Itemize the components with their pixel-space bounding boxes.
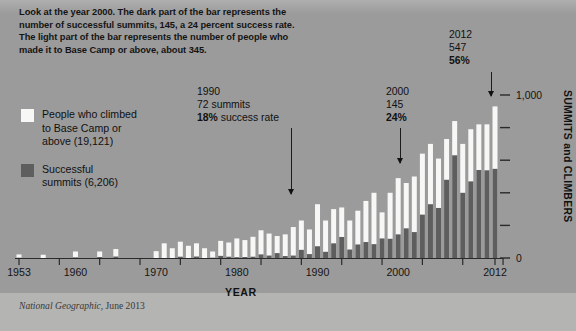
- bar-summits-2004: [428, 204, 433, 258]
- bar-climbers-2009: [468, 129, 473, 258]
- annotation-2012: 2012 547 56%: [449, 28, 472, 68]
- bar-climbers-2003: [420, 154, 425, 258]
- bar-summits-1953: [17, 258, 22, 259]
- bar-climbers-2012: [493, 106, 498, 258]
- bar-climbers-1995: [355, 211, 360, 258]
- y-axis-title: SUMMITS and CLIMBERS: [562, 90, 573, 222]
- legend-summits-line-1: Successful: [42, 163, 118, 177]
- caption-text: Look at the year 2000. The dark part of …: [19, 6, 319, 56]
- annotation-1990-rate: 18% success rate: [197, 111, 279, 124]
- bar-summits-1991: [323, 252, 328, 258]
- annotation-1990-year: 1990: [197, 85, 279, 98]
- bar-climbers-2006: [444, 139, 449, 258]
- bar-climbers-1990: [315, 204, 320, 258]
- x-axis-label-1953: 1953: [7, 266, 31, 278]
- y-axis-label-1000: 1,000: [516, 90, 542, 101]
- annotation-2012-rate-pct: 56%: [449, 55, 470, 66]
- annotation-2012-year: 2012: [449, 28, 472, 41]
- caption-line-3: The light part of the bar represents the…: [19, 31, 319, 44]
- bar-summits-1977: [210, 258, 215, 259]
- legend-swatch-dark-icon: [21, 164, 34, 177]
- bar-summits-1978: [218, 256, 223, 258]
- bar-summits-1992: [331, 243, 336, 258]
- bar-climbers-1992: [331, 209, 336, 258]
- bar-climbers-1987: [291, 227, 296, 258]
- infographic-root: Look at the year 2000. The dark part of …: [0, 0, 576, 331]
- bar-summits-1987: [291, 256, 296, 258]
- legend-item-climbers: People who climbed to Base Camp or above…: [21, 108, 137, 149]
- legend-label-climbers: People who climbed to Base Camp or above…: [42, 108, 137, 149]
- bar-climbers-1989: [307, 229, 312, 258]
- bar-climbers-1977: [210, 251, 215, 258]
- bar-summits-1963: [97, 257, 102, 258]
- bar-summits-2001: [404, 228, 409, 258]
- bar-summits-1985: [275, 253, 280, 258]
- x-axis-label-1980: 1980: [225, 266, 249, 278]
- bar-climbers-1978: [218, 241, 223, 258]
- bar-climbers-1982: [250, 237, 255, 258]
- bar-summits-1993: [339, 237, 344, 258]
- bar-summits-1995: [355, 244, 360, 258]
- bar-summits-1980: [234, 257, 239, 258]
- caption-line-1: Look at the year 2000. The dark part of …: [19, 6, 319, 19]
- bar-summits-1996: [363, 242, 368, 258]
- x-axis-title: YEAR: [225, 286, 257, 298]
- bar-climbers-1979: [226, 243, 231, 258]
- bar-summits-1981: [242, 257, 247, 258]
- bar-climbers-1975: [194, 243, 199, 258]
- bar-summits-1984: [267, 256, 272, 258]
- legend-swatch-light-icon: [21, 109, 34, 122]
- bar-summits-1994: [347, 250, 352, 258]
- leader-arrow-2000-icon: [397, 158, 403, 164]
- caption-line-4: made it to Base Camp or above, about 345…: [19, 44, 319, 57]
- legend-climbers-line-2: to Base Camp or: [42, 122, 137, 136]
- bar-summits-2003: [420, 215, 425, 258]
- bar-climbers-1972: [170, 248, 175, 258]
- bar-climbers-1986: [283, 234, 288, 258]
- bar-summits-2010: [476, 170, 481, 258]
- footer-band: [0, 293, 576, 331]
- leader-arrow-1990-icon: [288, 189, 294, 195]
- source-publication: National Geographic: [19, 300, 101, 311]
- bar-summits-1997: [371, 244, 376, 258]
- bar-summits-1983: [259, 254, 264, 258]
- bar-summits-2002: [412, 232, 417, 258]
- bar-climbers-2011: [484, 124, 489, 258]
- bar-climbers-1994: [347, 221, 352, 258]
- annotation-1990: 1990 72 summits 18% success rate: [197, 85, 279, 125]
- annotation-1990-value: 72 summits: [197, 98, 279, 111]
- y-axis-label-0: 0: [516, 253, 522, 264]
- bar-summits-1986: [283, 256, 288, 258]
- annotation-2000: 2000 145 24%: [386, 85, 409, 125]
- bar-climbers-1996: [363, 201, 368, 258]
- bar-climbers-1970: [154, 251, 159, 258]
- bar-summits-1999: [388, 239, 393, 258]
- x-axis-label-1990: 1990: [306, 266, 330, 278]
- bar-summits-1973: [178, 257, 183, 258]
- bar-summits-2006: [444, 180, 449, 258]
- caption-line-2: number of successful summits, 145, a 24 …: [19, 19, 319, 32]
- bar-climbers-2008: [460, 144, 465, 258]
- annotation-2000-year: 2000: [386, 85, 409, 98]
- bar-summits-1998: [380, 238, 385, 258]
- leader-line-2012: [491, 72, 492, 96]
- bar-summits-1988: [299, 250, 304, 258]
- bar-summits-1990: [315, 246, 320, 258]
- bar-summits-2007: [452, 155, 457, 258]
- bar-climbers-2010: [476, 124, 481, 258]
- bar-climbers-1984: [267, 234, 272, 258]
- bar-climbers-2000: [396, 178, 401, 258]
- bar-summits-1975: [194, 257, 199, 258]
- annotation-1990-rate-pct: 18%: [197, 112, 218, 123]
- bar-summits-1989: [307, 254, 312, 258]
- annotation-1990-rate-suffix: success rate: [218, 112, 279, 123]
- x-axis-label-1960: 1960: [64, 266, 88, 278]
- annotation-2012-value: 547: [449, 41, 472, 54]
- leader-line-2000: [400, 128, 401, 163]
- bar-summits-1979: [226, 257, 231, 258]
- bar-climbers-1981: [242, 240, 247, 258]
- bar-climbers-1974: [186, 246, 191, 258]
- bar-summits-2011: [484, 170, 489, 258]
- legend-item-summits: Successful summits (6,206): [21, 163, 137, 190]
- bar-climbers-1956: [41, 255, 46, 258]
